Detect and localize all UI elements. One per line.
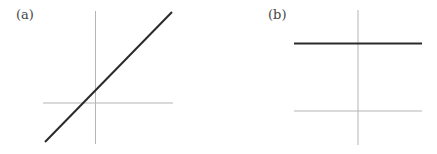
panel-a-linear-function-line [45,12,172,142]
panel-a [43,11,173,144]
diagram-canvas [0,0,437,154]
panel-b [294,10,422,145]
